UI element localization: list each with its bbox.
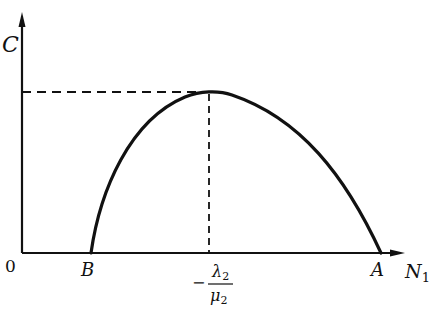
curve [91, 92, 381, 253]
point-b-label: B [80, 259, 94, 280]
y-axis [19, 12, 26, 253]
peak-x-label: − λ2 μ2 [192, 262, 233, 307]
peak-x-label-denominator: μ2 [210, 286, 227, 307]
y-axis-label: C [2, 32, 19, 57]
x-axis-arrow-icon [390, 250, 405, 257]
origin-label: 0 [5, 256, 16, 276]
x-axis-label-main: N [404, 260, 423, 282]
x-axis-label-sub: 1 [422, 270, 430, 285]
y-axis-arrow-icon [19, 12, 26, 27]
peak-x-label-sign: − [192, 273, 205, 292]
x-axis-label: N1 [404, 260, 430, 285]
diagram-canvas: C 0 B A N1 − λ2 μ2 [0, 0, 436, 330]
x-axis [22, 250, 405, 257]
point-a-label: A [369, 259, 384, 280]
peak-x-label-numerator: λ2 [211, 262, 229, 283]
